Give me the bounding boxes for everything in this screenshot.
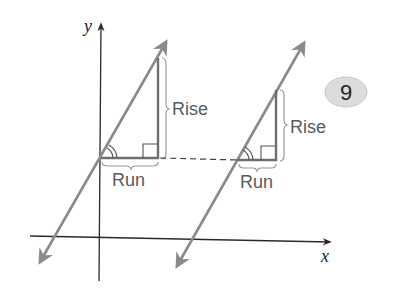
rise-label: Rise <box>172 99 208 119</box>
run-label: Run <box>112 170 145 190</box>
right-angle-marker <box>261 146 276 160</box>
parallel-line-1 <box>40 42 166 262</box>
slope-triangle-1: Rise Run <box>101 58 208 190</box>
angle-arc-marker <box>107 148 113 158</box>
y-axis-label: y <box>82 16 92 36</box>
slope-triangle-2: Rise Run <box>237 90 326 192</box>
problem-number-badge: 9 <box>325 77 367 107</box>
parallel-line-2 <box>177 43 304 266</box>
problem-number: 9 <box>340 80 352 105</box>
x-axis-label: x <box>320 246 329 266</box>
rise-brace <box>162 58 169 159</box>
run-label: Run <box>240 172 273 192</box>
run-brace <box>102 162 158 169</box>
dashed-connector <box>160 158 238 160</box>
y-axis: y <box>82 16 101 281</box>
run-brace <box>239 164 276 171</box>
slope-diagram: y x Rise Run Rise Run <box>0 0 400 303</box>
angle-arc-marker <box>243 150 249 160</box>
right-angle-marker <box>143 144 158 158</box>
rise-brace <box>280 90 287 161</box>
rise-label: Rise <box>290 117 326 137</box>
